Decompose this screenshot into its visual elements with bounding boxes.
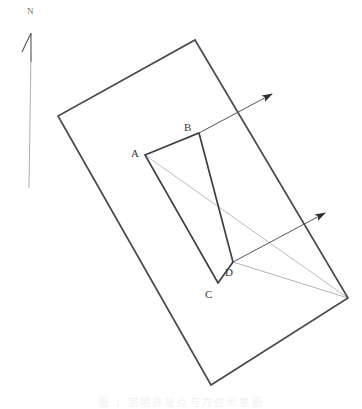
north-stem-line	[29, 52, 31, 188]
vertex-label-b: B	[184, 121, 191, 133]
figure-caption: 图 1 宗地界址点与方位示意图	[98, 394, 264, 409]
vertex-labels-group: A B D C	[131, 121, 233, 300]
bearing-arrows-group	[199, 94, 325, 262]
diagram-canvas: N A B D C	[0, 0, 362, 409]
vertex-label-a: A	[131, 147, 139, 159]
north-letter: N	[27, 6, 34, 16]
vertex-label-d: D	[225, 266, 233, 278]
north-arrow-group: N	[22, 6, 34, 188]
convergence-rays	[145, 155, 348, 298]
outer-parcel-boundary	[58, 40, 348, 385]
figure-caption-strip: 图 1 宗地界址点与方位示意图	[0, 394, 362, 409]
vertex-label-c: C	[205, 288, 212, 300]
ray-from-corner-a	[145, 155, 348, 298]
north-chevron-icon	[22, 33, 31, 62]
bearing-arrow-upper	[199, 94, 272, 133]
figure-root: N A B D C 图 1 宗地界址点与方位示意图	[0, 0, 362, 409]
